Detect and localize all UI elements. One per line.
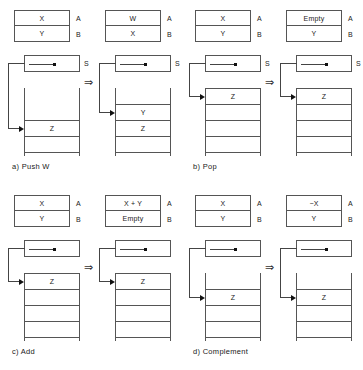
pointer-segment-top [189,63,206,64]
pointer-line-internal [301,64,326,65]
stack-pointer-register [205,55,261,72]
stack-cell-value: Z [24,120,80,136]
register-pair-before: XAYB [195,10,253,42]
stack-rail-right [260,273,261,341]
pointer-line-internal [120,64,145,65]
stack-cell-value: Z [115,273,171,289]
implies-arrow: ⇒ [84,77,93,88]
register-value: Y [286,211,342,227]
implies-arrow: ⇒ [84,262,93,273]
register-row: XA [14,10,72,26]
stack-cell-divider [296,337,352,338]
stack-cell-divider [24,337,80,338]
stack-cell-divider [115,136,171,137]
register-pair-after: −XAYB [286,195,344,227]
pointer-arrowhead [19,279,24,285]
pointer-segment-vertical [280,248,281,297]
stack-cell-divider [296,305,352,306]
stack-before: Z [205,88,261,156]
register-value: X [195,10,251,26]
register-row: XB [105,26,163,42]
implies-arrow: ⇒ [265,262,274,273]
state-after: EmptyAYBSZ [274,0,363,165]
stack-after: Z [296,273,352,341]
state-after: WAXBSYZ [93,0,183,165]
register-value: −X [286,195,342,211]
register-value: Y [195,211,251,227]
stack-cell-divider [24,321,80,322]
register-name: B [167,211,172,227]
stack-pointer-label: S [356,55,361,72]
panel-d: XAYBZ−XAYBZ⇒d) Complement [181,185,362,370]
register-pair-before: XAYB [14,195,72,227]
panel-a: XAYBSZWAXBSYZ⇒a) Push W [0,0,181,185]
pointer-line-internal [210,249,235,250]
pointer-segment-top [280,248,297,249]
register-name: B [76,26,81,42]
pointer-segment-top [280,63,297,64]
register-name: A [76,10,81,26]
pointer-arrowhead [110,279,115,285]
pointer-segment-top [189,248,206,249]
stack-after: Z [115,273,171,341]
register-row: XA [14,195,72,211]
stack-cell-divider [205,337,261,338]
register-row: YB [14,211,72,227]
stack-cell-divider [115,321,171,322]
state-before: XAYBZ [183,185,273,350]
stack-cell-divider [296,321,352,322]
pointer-segment-vertical [8,248,9,281]
stack-pointer-register [296,240,352,257]
stack-cell-divider [24,305,80,306]
pointer-dot [325,63,328,66]
pointer-arrowhead [200,94,205,100]
stack-cell-value: Z [205,88,261,104]
register-name: A [167,10,172,26]
register-row: EmptyA [286,10,344,26]
panel-caption: d) Complement [193,347,248,356]
stack-pointer-label: S [175,55,180,72]
register-value: X [14,195,70,211]
register-name: B [348,211,353,227]
stack-pointer-label: S [84,55,89,72]
pointer-segment-vertical [280,63,281,96]
stack-cell-divider [24,289,80,290]
register-value: Y [14,211,70,227]
pointer-segment-top [8,248,25,249]
stack-machine-operations-figure: XAYBSZWAXBSYZ⇒a) Push WXAYBSZEmptyAYBSZ⇒… [0,0,363,370]
pointer-line-internal [29,249,54,250]
pointer-segment-vertical [8,63,9,128]
stack-cell-divider [205,305,261,306]
pointer-dot [53,248,56,251]
register-row: XA [195,195,253,211]
stack-cell-divider [205,104,261,105]
stack-pointer-register [115,55,171,72]
stack-cell-divider [296,120,352,121]
stack-cell-value: Y [115,104,171,120]
register-row: YB [195,211,253,227]
pointer-dot [144,63,147,66]
state-before: XAYBZ [2,185,92,350]
register-pair-after: WAXB [105,10,163,42]
register-name: B [348,26,353,42]
pointer-segment-top [99,63,116,64]
register-row: XA [195,10,253,26]
pointer-line-internal [29,64,54,65]
pointer-arrowhead [200,295,205,301]
pointer-dot [234,248,237,251]
pointer-segment-top [99,248,116,249]
register-name: A [167,195,172,211]
stack-rail-left [205,273,206,341]
stack-cell-value: Z [115,120,171,136]
state-after: −XAYBZ [274,185,363,350]
register-row: YB [286,211,344,227]
register-row: X + YA [105,195,163,211]
register-value: X [14,10,70,26]
register-row: WA [105,10,163,26]
register-value: X [195,195,251,211]
register-row: −XA [286,195,344,211]
stack-rail-right [351,273,352,341]
register-value: X + Y [105,195,161,211]
register-name: B [257,211,262,227]
register-row: YB [195,26,253,42]
